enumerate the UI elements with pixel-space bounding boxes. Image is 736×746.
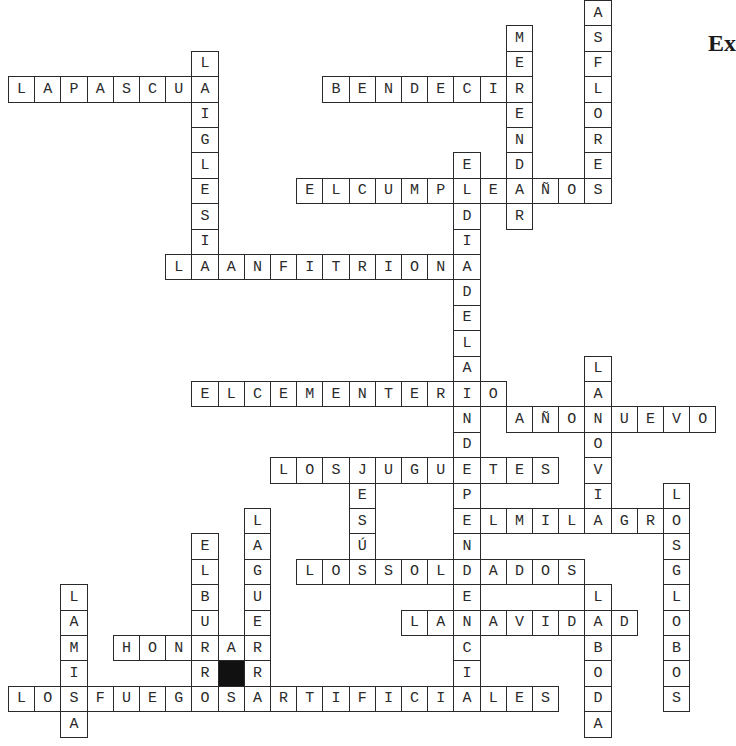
- crossword-cell[interactable]: O: [689, 406, 716, 432]
- crossword-cell[interactable]: E: [637, 406, 664, 432]
- crossword-cell[interactable]: C: [139, 76, 166, 102]
- crossword-cell[interactable]: O: [584, 432, 611, 458]
- crossword-cell[interactable]: R: [427, 381, 454, 407]
- crossword-cell[interactable]: A: [584, 711, 611, 737]
- crossword-cell[interactable]: L: [480, 686, 507, 712]
- crossword-cell[interactable]: A: [218, 635, 245, 661]
- crossword-cell[interactable]: U: [375, 457, 402, 483]
- crossword-cell[interactable]: A: [191, 254, 218, 280]
- crossword-cell[interactable]: E: [191, 533, 218, 559]
- crossword-cell[interactable]: B: [584, 635, 611, 661]
- crossword-cell[interactable]: I: [375, 254, 402, 280]
- crossword-cell[interactable]: M: [506, 508, 533, 534]
- crossword-cell[interactable]: E: [427, 76, 454, 102]
- crossword-cell[interactable]: O: [663, 508, 690, 534]
- crossword-cell[interactable]: N: [453, 533, 480, 559]
- crossword-cell[interactable]: S: [558, 559, 585, 585]
- crossword-cell[interactable]: T: [296, 686, 323, 712]
- crossword-cell[interactable]: O: [191, 686, 218, 712]
- crossword-cell[interactable]: F: [349, 686, 376, 712]
- crossword-cell[interactable]: L: [191, 152, 218, 178]
- crossword-cell[interactable]: O: [322, 559, 349, 585]
- crossword-cell[interactable]: I: [480, 76, 507, 102]
- crossword-cell[interactable]: R: [637, 508, 664, 534]
- crossword-cell[interactable]: V: [663, 406, 690, 432]
- crossword-cell[interactable]: L: [191, 51, 218, 77]
- crossword-cell[interactable]: C: [349, 178, 376, 204]
- crossword-cell[interactable]: O: [480, 381, 507, 407]
- crossword-cell[interactable]: I: [427, 686, 454, 712]
- crossword-cell[interactable]: C: [453, 76, 480, 102]
- crossword-cell[interactable]: A: [584, 0, 611, 26]
- crossword-cell[interactable]: D: [401, 76, 428, 102]
- crossword-cell[interactable]: E: [453, 152, 480, 178]
- crossword-cell[interactable]: S: [375, 559, 402, 585]
- crossword-cell[interactable]: A: [191, 76, 218, 102]
- crossword-cell[interactable]: I: [322, 686, 349, 712]
- crossword-cell[interactable]: L: [453, 330, 480, 356]
- crossword-cell[interactable]: L: [296, 559, 323, 585]
- crossword-cell[interactable]: L: [427, 559, 454, 585]
- crossword-cell[interactable]: I: [532, 508, 559, 534]
- crossword-cell[interactable]: S: [322, 457, 349, 483]
- crossword-cell[interactable]: R: [270, 686, 297, 712]
- crossword-cell[interactable]: B: [322, 76, 349, 102]
- crossword-cell[interactable]: C: [244, 381, 271, 407]
- crossword-cell[interactable]: G: [401, 457, 428, 483]
- crossword-cell[interactable]: S: [584, 178, 611, 204]
- crossword-cell[interactable]: O: [663, 660, 690, 686]
- crossword-cell[interactable]: L: [270, 457, 297, 483]
- crossword-cell[interactable]: D: [453, 559, 480, 585]
- crossword-cell[interactable]: P: [60, 76, 87, 102]
- crossword-cell[interactable]: O: [558, 406, 585, 432]
- crossword-cell[interactable]: A: [453, 254, 480, 280]
- crossword-cell[interactable]: L: [60, 584, 87, 610]
- crossword-cell[interactable]: H: [113, 635, 140, 661]
- crossword-cell[interactable]: M: [296, 381, 323, 407]
- crossword-cell[interactable]: L: [401, 610, 428, 636]
- crossword-cell[interactable]: A: [87, 76, 114, 102]
- crossword-cell[interactable]: L: [480, 508, 507, 534]
- crossword-cell[interactable]: A: [480, 559, 507, 585]
- crossword-cell[interactable]: N: [453, 610, 480, 636]
- crossword-cell[interactable]: E: [349, 483, 376, 509]
- crossword-cell[interactable]: D: [611, 610, 638, 636]
- crossword-cell[interactable]: G: [611, 508, 638, 534]
- crossword-cell[interactable]: Ñ: [532, 406, 559, 432]
- crossword-cell[interactable]: E: [270, 381, 297, 407]
- crossword-cell[interactable]: N: [165, 635, 192, 661]
- crossword-cell[interactable]: L: [453, 178, 480, 204]
- crossword-cell[interactable]: E: [244, 610, 271, 636]
- crossword-cell[interactable]: A: [453, 686, 480, 712]
- crossword-cell[interactable]: B: [191, 584, 218, 610]
- crossword-cell[interactable]: A: [584, 508, 611, 534]
- crossword-cell[interactable]: O: [34, 686, 61, 712]
- crossword-cell[interactable]: O: [139, 635, 166, 661]
- crossword-cell[interactable]: A: [244, 533, 271, 559]
- crossword-cell[interactable]: F: [270, 254, 297, 280]
- crossword-cell[interactable]: U: [427, 457, 454, 483]
- crossword-cell[interactable]: C: [453, 635, 480, 661]
- crossword-cell[interactable]: U: [375, 178, 402, 204]
- crossword-cell[interactable]: R: [584, 127, 611, 153]
- crossword-cell[interactable]: E: [191, 178, 218, 204]
- crossword-cell[interactable]: A: [453, 356, 480, 382]
- crossword-cell[interactable]: O: [401, 254, 428, 280]
- crossword-cell[interactable]: V: [584, 457, 611, 483]
- crossword-cell[interactable]: M: [401, 178, 428, 204]
- crossword-cell[interactable]: D: [584, 686, 611, 712]
- crossword-cell[interactable]: L: [244, 508, 271, 534]
- crossword-cell[interactable]: A: [480, 610, 507, 636]
- crossword-cell[interactable]: E: [322, 381, 349, 407]
- crossword-cell[interactable]: G: [244, 559, 271, 585]
- crossword-cell[interactable]: S: [191, 203, 218, 229]
- crossword-cell[interactable]: E: [401, 381, 428, 407]
- crossword-cell[interactable]: S: [60, 686, 87, 712]
- crossword-cell[interactable]: A: [244, 686, 271, 712]
- crossword-cell[interactable]: E: [453, 508, 480, 534]
- crossword-cell[interactable]: N: [453, 406, 480, 432]
- crossword-cell[interactable]: O: [584, 660, 611, 686]
- crossword-cell[interactable]: S: [532, 686, 559, 712]
- crossword-cell[interactable]: O: [532, 559, 559, 585]
- crossword-cell[interactable]: N: [427, 254, 454, 280]
